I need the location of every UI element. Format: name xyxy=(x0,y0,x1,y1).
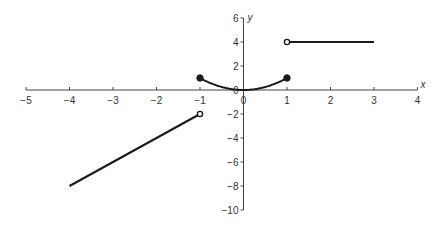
y-tick-label: 6 xyxy=(233,13,239,24)
y-tick-label: −8 xyxy=(227,181,239,192)
closed-endpoint-marker xyxy=(284,75,290,81)
y-tick-label: 4 xyxy=(233,37,239,48)
open-endpoint-marker xyxy=(284,39,289,44)
x-tick-label: 1 xyxy=(284,95,290,106)
x-tick-label: 2 xyxy=(328,95,334,106)
y-tick-label: −4 xyxy=(227,133,239,144)
x-tick-label: −2 xyxy=(151,95,163,106)
y-axis-label: y xyxy=(247,12,254,23)
closed-endpoint-marker xyxy=(197,75,203,81)
piecewise-function-chart: −5−4−3−2−1012346420−2−4−6−8−10 x y xyxy=(0,0,442,234)
y-tick-label: −2 xyxy=(227,109,239,120)
x-tick-label: −5 xyxy=(20,95,32,106)
ticks: −5−4−3−2−1012346420−2−4−6−8−10 xyxy=(20,13,420,216)
y-tick-label: 2 xyxy=(233,61,239,72)
x-tick-label: 3 xyxy=(371,95,377,106)
axes xyxy=(26,18,418,210)
x-axis-label: x xyxy=(420,79,427,90)
x-tick-label: −4 xyxy=(64,95,76,106)
x-tick-label: −1 xyxy=(194,95,206,106)
x-tick-label: 0 xyxy=(241,95,247,106)
function-segment xyxy=(70,114,201,186)
y-tick-label: −6 xyxy=(227,157,239,168)
y-tick-label: −10 xyxy=(222,205,239,216)
x-tick-label: 4 xyxy=(415,95,421,106)
open-endpoint-marker xyxy=(197,111,202,116)
x-tick-label: −3 xyxy=(107,95,119,106)
series xyxy=(70,39,375,186)
